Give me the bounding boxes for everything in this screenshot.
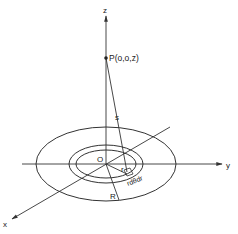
z-axis-label: z	[103, 6, 107, 15]
radius-R-label: R	[110, 192, 116, 201]
area-element-label: rdθdr	[126, 174, 144, 187]
point-p-label: P(o,o,z)	[109, 53, 139, 63]
x-axis	[12, 127, 170, 219]
x-axis-label: x	[3, 220, 7, 229]
origin-label: O	[97, 155, 103, 164]
point-p-dot	[104, 56, 108, 60]
distance-s-label: s	[115, 113, 119, 122]
y-axis-label: y	[226, 161, 230, 170]
disc-diagram: z y x P(o,o,z) O s r rdθdr R	[0, 0, 238, 234]
radius-r-label: r	[121, 165, 124, 174]
